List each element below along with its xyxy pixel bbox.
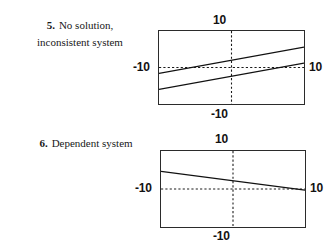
calculator-graph-6: 10 -10 10 -10 [133,132,333,247]
graph-5-screen [158,30,305,105]
problem-5-text-line2: inconsistent system [37,36,123,48]
calculator-graph-5: 10 -10 10 -10 [133,12,333,130]
problem-6-label: 6. Dependent system [22,134,150,151]
graph-5-window-bottom-label: -10 [211,107,228,121]
graph-5-line-upper [159,47,304,73]
graph-6-window-right-label: 10 [310,181,323,195]
problem-5-text-line1: No solution, [59,19,113,31]
graph-5-plot-area [159,31,304,104]
problem-6-number: 6. [39,137,47,149]
graph-5-window-right-label: 10 [309,60,322,74]
graph-6-plot-area [161,151,305,227]
graph-5-window-top-label: 10 [213,13,226,27]
graph-6-window-left-label: -10 [135,181,152,195]
graph-6-screen [160,150,306,228]
graph-5-window-left-label: -10 [133,60,150,74]
graph-6-window-bottom-label: -10 [213,229,230,243]
graph-6-svg [161,151,305,227]
graph-5-svg [159,31,304,104]
problem-5-number: 5. [47,19,55,31]
figure-page: 5. No solution, inconsistent system 10 -… [0,0,333,247]
problem-6-text-line1: Dependent system [52,137,133,149]
graph-6-window-top-label: 10 [215,132,228,146]
problem-5-label: 5. No solution, inconsistent system [14,16,146,50]
